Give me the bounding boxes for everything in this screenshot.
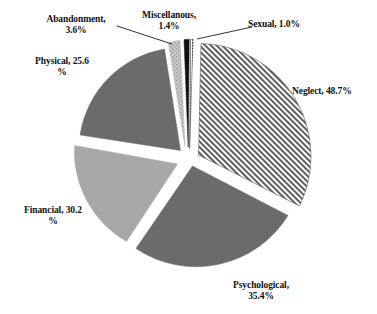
slice-label-abandonment: Abandonment, 3.6% bbox=[32, 14, 120, 36]
slice-label-sexual: Sexual, 1.0% bbox=[248, 19, 340, 30]
slice-label-miscellanous: Miscellanous, 1.4% bbox=[123, 10, 215, 32]
pie-chart: Abandonment, 3.6% Miscellanous, 1.4% Sex… bbox=[0, 0, 377, 314]
pie-slice-miscellanous[interactable] bbox=[184, 39, 189, 147]
slice-label-financial: Financial, 30.2 % bbox=[6, 205, 100, 227]
slice-label-physical: Physical, 25.6 % bbox=[16, 56, 108, 78]
pie-chart-canvas bbox=[0, 0, 377, 314]
pie-slice-sexual[interactable] bbox=[190, 39, 193, 148]
slice-label-neglect: Neglect, 48.7% bbox=[292, 86, 376, 97]
slice-label-psychological: Psychological, 35.4% bbox=[206, 280, 316, 302]
